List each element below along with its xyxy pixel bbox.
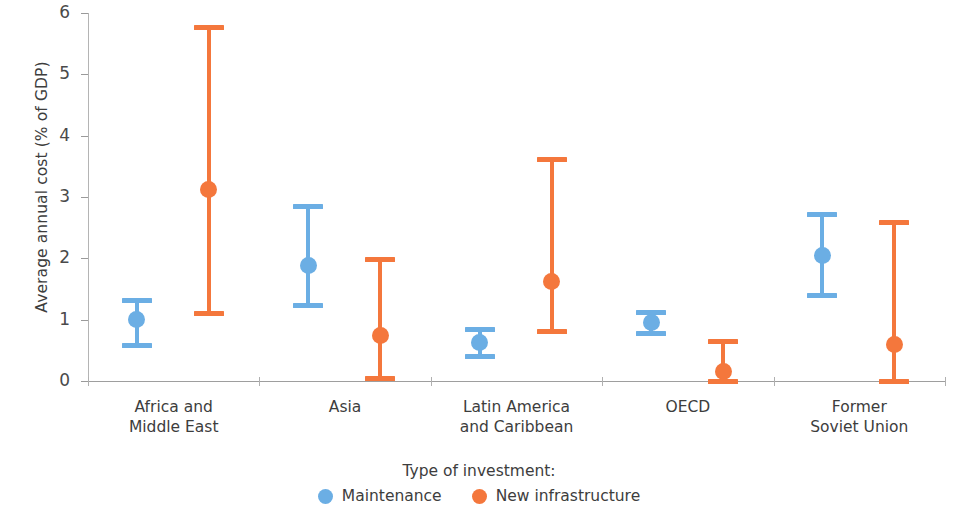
y-axis-tick-label: 6 bbox=[30, 4, 70, 21]
error-bar-stem bbox=[892, 222, 896, 381]
error-bar-upper-cap bbox=[636, 310, 666, 315]
error-bar-stem bbox=[207, 27, 211, 313]
error-bar-stem bbox=[478, 329, 482, 356]
x-axis-category-label: Latin America and Caribbean bbox=[431, 397, 602, 438]
legend-item[interactable]: Maintenance bbox=[318, 487, 442, 505]
data-point-marker bbox=[643, 314, 660, 331]
error-bar-lower-cap bbox=[122, 343, 152, 348]
data-point-marker bbox=[886, 336, 903, 353]
error-bar-upper-cap bbox=[465, 327, 495, 332]
y-axis-tick-label: 4 bbox=[30, 127, 70, 144]
legend-item-label: New infrastructure bbox=[496, 487, 641, 505]
error-bar-lower-cap bbox=[465, 354, 495, 359]
y-axis-tick-mark bbox=[81, 258, 88, 259]
x-axis-category-label: Africa and Middle East bbox=[88, 397, 259, 438]
error-bar-upper-cap bbox=[365, 257, 395, 262]
x-axis-category-label: Former Soviet Union bbox=[774, 397, 945, 438]
y-axis-tick-mark bbox=[81, 381, 88, 382]
error-bar-upper-cap bbox=[879, 220, 909, 225]
error-bar-lower-cap bbox=[636, 331, 666, 336]
x-axis-divider bbox=[774, 377, 775, 386]
y-axis-line bbox=[88, 13, 89, 381]
error-bar-lower-cap bbox=[293, 303, 323, 308]
data-point-marker bbox=[200, 181, 217, 198]
data-point-marker bbox=[543, 273, 560, 290]
y-axis-tick-mark bbox=[81, 136, 88, 137]
x-axis-category-label: Asia bbox=[259, 397, 430, 417]
y-axis-tick-label: 5 bbox=[30, 65, 70, 82]
x-axis-line bbox=[88, 381, 945, 382]
legend-items: MaintenanceNew infrastructure bbox=[0, 487, 958, 505]
error-bar-stem bbox=[550, 159, 554, 331]
data-point-marker bbox=[471, 334, 488, 351]
y-axis-tick-mark bbox=[81, 13, 88, 14]
error-bar-lower-cap bbox=[194, 311, 224, 316]
error-bar-upper-cap bbox=[807, 212, 837, 217]
data-point-marker bbox=[372, 327, 389, 344]
y-axis-tick-label: 3 bbox=[30, 188, 70, 205]
data-point-marker bbox=[715, 363, 732, 380]
x-axis-divider bbox=[602, 377, 603, 386]
data-point-marker bbox=[128, 311, 145, 328]
legend-swatch-circle-icon bbox=[318, 489, 333, 504]
x-axis-divider bbox=[431, 377, 432, 386]
x-axis-divider bbox=[259, 377, 260, 386]
legend-item[interactable]: New infrastructure bbox=[472, 487, 641, 505]
error-bar-stem bbox=[721, 341, 725, 381]
data-point-marker bbox=[300, 257, 317, 274]
error-bar-lower-cap bbox=[807, 293, 837, 298]
error-bar-lower-cap bbox=[537, 329, 567, 334]
error-bar-chart: Average annual cost (% of GDP) 6543210 A… bbox=[0, 0, 958, 515]
error-bar-stem bbox=[135, 300, 139, 345]
x-axis-divider bbox=[88, 377, 89, 386]
legend-item-label: Maintenance bbox=[342, 487, 442, 505]
x-axis-category-label: OECD bbox=[602, 397, 773, 417]
legend-title: Type of investment: bbox=[0, 462, 958, 480]
y-axis-tick-label: 2 bbox=[30, 249, 70, 266]
y-axis-tick-mark bbox=[81, 197, 88, 198]
error-bar-upper-cap bbox=[708, 339, 738, 344]
x-axis-divider bbox=[945, 377, 946, 386]
legend: Type of investment: MaintenanceNew infra… bbox=[0, 462, 958, 505]
error-bar-stem bbox=[820, 214, 824, 295]
y-axis-tick-mark bbox=[81, 74, 88, 75]
y-axis-tick-mark bbox=[81, 320, 88, 321]
error-bar-upper-cap bbox=[194, 25, 224, 30]
data-point-marker bbox=[814, 247, 831, 264]
error-bar-upper-cap bbox=[537, 157, 567, 162]
legend-swatch-circle-icon bbox=[472, 489, 487, 504]
error-bar-upper-cap bbox=[293, 204, 323, 209]
error-bar-upper-cap bbox=[122, 298, 152, 303]
error-bar-stem bbox=[649, 312, 653, 333]
y-axis-tick-label: 0 bbox=[30, 372, 70, 389]
error-bar-stem bbox=[306, 206, 310, 305]
y-axis-tick-label: 1 bbox=[30, 311, 70, 328]
error-bar-stem bbox=[378, 259, 382, 378]
